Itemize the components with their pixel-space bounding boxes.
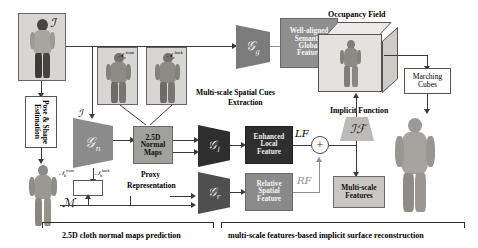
pose-shape-estimation-box: Pose & Shape Estimation	[25, 96, 57, 148]
normal-maps-line-3: Maps	[144, 149, 162, 157]
mesh-label: ℳ	[62, 196, 75, 210]
input-image-label-secondary: ℐ	[78, 108, 83, 119]
multiscale-features-line-2: Features	[345, 192, 372, 200]
right-caption-bracket	[221, 222, 465, 228]
spatial-feature-box: Relative Spatial Feature	[245, 173, 293, 211]
marching-cubes-box: Marching Cubes	[404, 68, 451, 94]
normal-maps-box: 2.5D Normal Maps	[133, 126, 173, 164]
left-caption-bracket	[42, 222, 214, 228]
global-encoder-gg: 𝒢g	[236, 25, 270, 69]
cloth-normal-front-label: 𝒩cfront	[118, 50, 134, 60]
relative-encoder-gr-label: 𝒢r	[208, 185, 220, 201]
normal-maps-converge-lines	[110, 105, 195, 127]
occupancy-field-title: Occupancy Field	[328, 10, 386, 19]
multiscale-spatial-cues-line-2: Extraction	[228, 98, 263, 107]
occupancy-person-silhouette	[340, 40, 362, 88]
sum-symbol: +	[317, 138, 324, 153]
occupancy-field-cube	[318, 22, 398, 94]
right-caption: multi-scale features-based implicit surf…	[228, 231, 424, 240]
global-encoder-gg-label: 𝒢g	[246, 38, 259, 56]
proxy-representation-line-2: Representation	[127, 181, 176, 190]
local-encoder-gl-label: 𝒢l	[208, 138, 219, 154]
local-feature-line-3: Feature	[257, 149, 281, 156]
input-image-photo	[18, 13, 66, 81]
body-normal-back-label: 𝒩bback	[95, 168, 110, 178]
relative-feature-tag: RF	[297, 175, 311, 186]
normal-encoder-gn: 𝒢n	[73, 118, 113, 168]
implicit-function-block: ℐℱ	[340, 117, 374, 141]
implicit-function-title: Implicit Function	[330, 106, 388, 115]
feature-sum-node: +	[311, 136, 329, 154]
input-image-label: ℐ	[50, 16, 56, 30]
proxy-representation-line-1: Proxy	[141, 170, 160, 179]
implicit-function-label: ℐℱ	[350, 122, 365, 136]
normal-encoder-gn-label: 𝒢n	[85, 134, 100, 153]
left-caption: 2.5D cloth normal maps prediction	[62, 231, 181, 240]
diagram-canvas: ℐ Pose & Shape Estimation ℳ ℐ 𝒢n	[0, 0, 478, 248]
multiscale-spatial-cues-line-1: Multi-scale Spatial Cues	[196, 88, 275, 97]
spatial-feature-line-3: Feature	[257, 196, 281, 203]
body-normal-front-label: 𝒩bfront	[59, 168, 74, 178]
multiscale-features-box: Multi-scale Features	[333, 176, 385, 208]
cloth-normal-back-label: 𝒩cback	[167, 50, 183, 60]
local-feature-tag: LF	[295, 128, 309, 139]
local-encoder-gl: 𝒢l	[198, 125, 230, 167]
relative-encoder-gr: 𝒢r	[198, 172, 230, 214]
smpl-mesh-figure	[20, 163, 64, 229]
pose-shape-estimation-label: Pose & Shape Estimation	[33, 97, 49, 147]
marching-cubes-line-2: Cubes	[418, 81, 437, 89]
local-feature-box: Enhanced Local Feature	[245, 126, 293, 164]
reconstructed-mesh-figure	[382, 118, 442, 214]
